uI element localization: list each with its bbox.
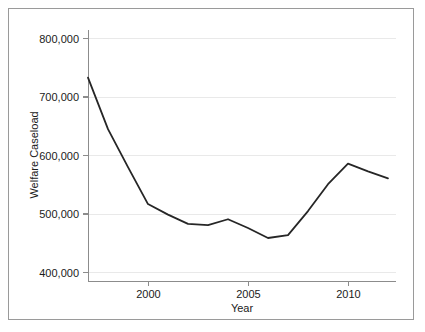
x-tick-label-2005: 2005 [236,288,260,300]
y-axis: 800,000 700,000 600,000 500,000 400,000 [39,30,88,281]
x-tick-label-2010: 2010 [336,288,360,300]
line-chart-plot: 800,000 700,000 600,000 500,000 400,000 … [0,0,425,332]
y-tick-label-400000: 400,000 [39,267,79,279]
gridlines [88,39,396,273]
y-tick-label-600000: 600,000 [39,150,79,162]
x-axis-title: Year [231,302,254,314]
x-axis: 2000 2005 2010 [88,281,396,300]
y-tick-label-500000: 500,000 [39,208,79,220]
y-axis-title: Welfare Caseload [28,111,40,198]
y-tick-label-700000: 700,000 [39,91,79,103]
chart-figure: 800,000 700,000 600,000 500,000 400,000 … [0,0,425,332]
x-tick-label-2000: 2000 [136,288,160,300]
y-tick-label-800000: 800,000 [39,33,79,45]
